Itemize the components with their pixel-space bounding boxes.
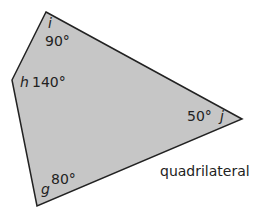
vertex-label-h: h <box>20 75 29 89</box>
caption: quadrilateral <box>160 164 250 178</box>
vertex-label-g: g <box>41 182 50 196</box>
angle-label-g: 80° <box>51 172 76 186</box>
quadrilateral-diagram <box>0 0 253 220</box>
angle-label-i: 90° <box>45 34 70 48</box>
vertex-label-i: i <box>48 16 52 30</box>
vertex-label-j: j <box>220 109 224 123</box>
angle-label-h: 140° <box>32 75 66 89</box>
angle-label-j: 50° <box>187 109 212 123</box>
